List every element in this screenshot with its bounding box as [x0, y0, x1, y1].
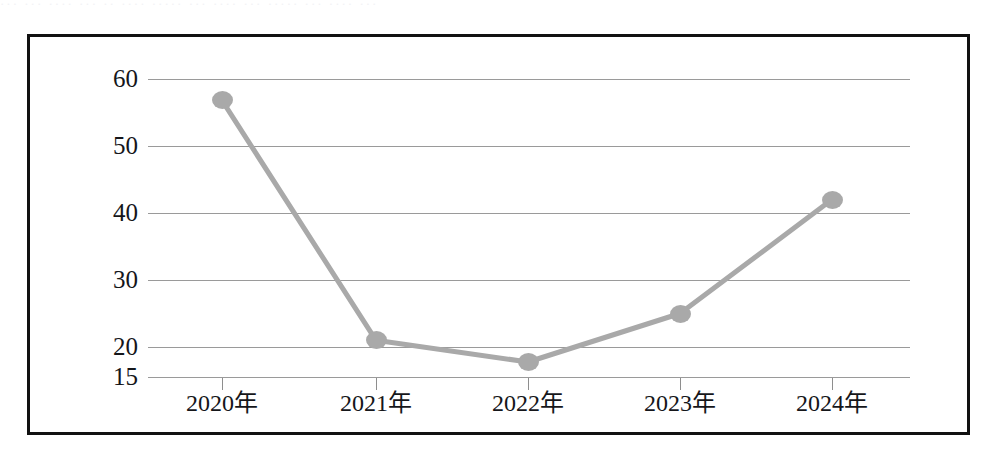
cut-off-header-text: ··· ··· ···· ··· ·· ···· ····· ··· ···· …	[0, 0, 996, 14]
chart-frame	[27, 34, 970, 435]
